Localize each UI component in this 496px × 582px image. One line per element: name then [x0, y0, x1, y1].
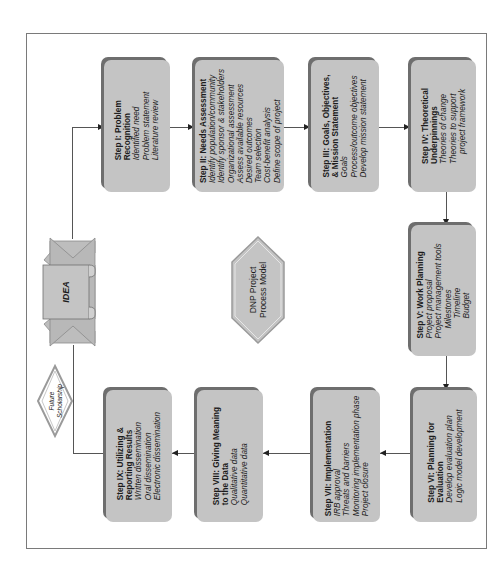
step-1-item: Literature review [151, 92, 160, 161]
step-5-item: Timeline [453, 243, 462, 338]
arrow-into-step8 [263, 450, 269, 456]
step-2-item: Define scope of project [272, 69, 281, 183]
step-8-title-line-2: to the Data [221, 407, 230, 505]
step-2-item: Assess available resources [235, 69, 244, 183]
step-7-text: Step VII: Implementation IRB approval Th… [323, 396, 369, 517]
step-8-title-line-1: Step VIII: Giving Meaning [212, 407, 221, 505]
step-4-item: project framework [457, 88, 466, 164]
step-8-item: Qualitative data [230, 407, 239, 505]
step-9-title-line-1: Step IX: Utilizing & [116, 412, 125, 500]
step-3-box: Step III: Goals, Objectives, & Mission S… [311, 60, 379, 192]
connector-step9-to-idea-horizontal [73, 453, 106, 454]
step-4-item: Theories to support [448, 88, 457, 164]
future-scholarship-line-2: Scholarship [55, 384, 63, 418]
step-5-item: Budget [462, 243, 471, 338]
step-2-item: Identify sponsor & stakeholders [216, 69, 225, 183]
step-8-item: Quantitative data [239, 407, 248, 505]
step-3-item: Process/outcome objectives [350, 75, 359, 178]
step-9-box: Step IX: Utilizing & Reporting Results W… [106, 390, 172, 522]
step-1-item: Problem statement [142, 92, 151, 161]
step-6-item: Develop evaluation plan [445, 409, 454, 502]
step-5-item: Milestones [444, 243, 453, 338]
arrow-into-step4 [404, 124, 410, 130]
step-8-box: Step VIII: Giving Meaning to the Data Qu… [197, 390, 263, 522]
step-7-item: Threats and barriers [342, 396, 351, 517]
step-6-box: Step VI: Planning for Evaluation Develop… [413, 390, 477, 522]
arrow-into-step9 [172, 450, 178, 456]
step-4-title-line-1: Step IV: Theoretical [420, 88, 429, 164]
step-9-item: Oral dissemination [144, 412, 153, 500]
model-title: DNP Project Process Model [248, 262, 268, 318]
step-2-item: Desired outcomes [244, 69, 253, 183]
connector-step9-to-idea-vertical [73, 345, 74, 454]
step-6-title-line-2: Evaluation [436, 409, 445, 502]
model-title-line-2: Process Model [258, 262, 268, 318]
step-2-text: Step II: Needs Assessment Identify popul… [198, 69, 281, 183]
step-2-box: Step II: Needs Assessment Identify popul… [195, 60, 284, 192]
step-9-item: Electronic dissemination [153, 412, 162, 500]
step-5-text: Step V: Work Planning Project proposal P… [416, 243, 471, 338]
step-6-item: Logic model development [454, 409, 463, 502]
step-2-item: Organizational assessment [226, 69, 235, 183]
step-6-text: Step VI: Planning for Evaluation Develop… [427, 409, 464, 502]
step-7-item: Monitoring implementation phase [351, 396, 360, 517]
arrow-into-step2 [188, 124, 194, 130]
step-5-item: Project management tools [434, 243, 443, 338]
step-4-box: Step IV: Theoretical Underpinnings Theor… [411, 60, 476, 192]
step-2-item: Team selection [253, 69, 262, 183]
step-1-title-line-2: Recognition [123, 92, 132, 161]
step-3-item: Goals [340, 75, 349, 178]
future-scholarship-line-1: Future [48, 384, 56, 418]
step-7-title: Step VII: Implementation [323, 396, 332, 517]
step-2-title: Step II: Needs Assessment [198, 69, 207, 183]
step-7-item: IRB approval [333, 396, 342, 517]
connector-step7-step8 [263, 453, 313, 454]
step-7-item: Project closure [360, 396, 369, 517]
step-4-text: Step IV: Theoretical Underpinnings Theor… [420, 88, 466, 164]
step-1-text: Step I: Problem Recognition Identified n… [114, 92, 160, 161]
step-1-box: Step I: Problem Recognition Identified n… [104, 60, 170, 192]
idea-label: IDEA [61, 281, 71, 303]
step-3-title-line-1: Step III: Goals, Objectives, [322, 75, 331, 178]
idea-node: IDEA [43, 238, 97, 346]
model-title-node: DNP Project Process Model [231, 236, 285, 344]
step-4-item: Theories of change [439, 88, 448, 164]
step-1-item: Identified need [132, 92, 141, 161]
step-5-item: Project proposal [425, 243, 434, 338]
step-6-title-line-1: Step VI: Planning for [427, 409, 436, 502]
step-3-title-line-2: & Mission Statement [331, 75, 340, 178]
step-8-text: Step VIII: Giving Meaning to the Data Qu… [212, 407, 249, 505]
future-scholarship-node: Future Scholarship [37, 365, 73, 437]
step-2-item: Cost-benefit analysis [263, 69, 272, 183]
arrow-into-step7 [380, 450, 386, 456]
future-scholarship-label: Future Scholarship [48, 384, 63, 418]
step-3-item: Develop mission statement [359, 75, 368, 178]
step-9-text: Step IX: Utilizing & Reporting Results W… [116, 412, 162, 500]
model-title-line-1: DNP Project [248, 262, 258, 318]
step-5-box: Step V: Work Planning Project proposal P… [411, 225, 476, 356]
step-5-title: Step V: Work Planning [416, 243, 425, 338]
step-7-box: Step VII: Implementation IRB approval Th… [313, 390, 380, 522]
arrow-into-step3 [304, 124, 310, 130]
step-9-title-line-2: Reporting Results [125, 412, 134, 500]
connector-idea-to-step1-vertical [72, 127, 73, 239]
step-4-title-line-2: Underpinnings [430, 88, 439, 164]
step-2-item: Identify population/community [207, 69, 216, 183]
step-1-title-line-1: Step I: Problem [114, 92, 123, 161]
step-3-text: Step III: Goals, Objectives, & Mission S… [322, 75, 368, 178]
step-9-item: Written dissemination [134, 412, 143, 500]
